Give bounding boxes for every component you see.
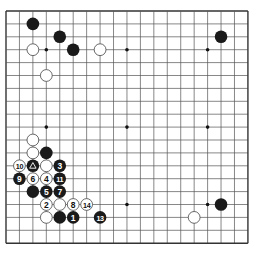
white-stone: 4 — [40, 173, 52, 185]
move-number: 13 — [96, 214, 104, 223]
white-stone — [94, 44, 106, 56]
black-stone-icon — [67, 43, 80, 56]
black-stone — [67, 43, 80, 56]
move-number: 1 — [71, 213, 76, 223]
move-number: 2 — [44, 200, 49, 210]
black-stone: 3 — [53, 160, 66, 173]
white-stone-icon — [94, 44, 106, 56]
move-number: 5 — [44, 187, 49, 197]
white-stone-icon — [188, 212, 200, 224]
black-stone — [53, 211, 66, 224]
white-stone-icon — [27, 147, 39, 159]
white-stone-icon — [27, 44, 39, 56]
move-number: 9 — [17, 174, 22, 184]
black-stone: 13 — [94, 211, 107, 224]
move-number: 14 — [83, 201, 91, 210]
white-stone: 8 — [67, 199, 79, 211]
white-stone — [188, 212, 200, 224]
star-point-icon — [125, 48, 129, 52]
white-stone: 6 — [27, 173, 39, 185]
white-stone-icon — [40, 160, 52, 172]
move-number: 11 — [56, 175, 63, 184]
white-stone — [40, 212, 52, 224]
white-stone-icon — [54, 199, 66, 211]
go-board: 10396411572814113 — [0, 0, 256, 255]
black-stone-icon — [27, 185, 40, 198]
black-stone-icon — [40, 147, 53, 160]
star-point-icon — [206, 125, 210, 129]
black-stone — [27, 185, 40, 198]
black-stone: 1 — [67, 211, 80, 224]
black-stone-icon — [53, 211, 66, 224]
black-stone — [53, 31, 66, 44]
black-stone — [215, 198, 228, 211]
move-number: 7 — [57, 187, 62, 197]
move-number: 4 — [44, 174, 49, 184]
black-stone-icon — [215, 31, 228, 44]
black-stone-icon — [27, 160, 40, 173]
black-stone-icon — [215, 198, 228, 211]
star-point-icon — [206, 203, 210, 207]
move-number: 10 — [16, 162, 24, 171]
black-stone — [40, 147, 53, 160]
white-stone-icon — [27, 134, 39, 146]
black-stone — [215, 31, 228, 44]
white-stone — [27, 44, 39, 56]
move-number: 6 — [31, 174, 36, 184]
black-stone — [27, 160, 40, 173]
black-stone: 9 — [13, 172, 26, 185]
star-point-icon — [125, 203, 129, 207]
black-stone: 5 — [40, 185, 53, 198]
star-point-icon — [206, 48, 210, 52]
white-stone-icon — [40, 70, 52, 82]
white-stone — [54, 199, 66, 211]
star-point-icon — [45, 125, 49, 129]
white-stone — [27, 147, 39, 159]
white-stone-icon — [40, 212, 52, 224]
move-number: 8 — [71, 200, 76, 210]
black-stone: 7 — [53, 185, 66, 198]
black-stone — [27, 18, 40, 31]
move-number: 3 — [57, 161, 62, 171]
white-stone: 2 — [40, 199, 52, 211]
black-stone: 11 — [53, 172, 66, 185]
white-stone: 10 — [14, 160, 26, 172]
black-stone-icon — [27, 18, 40, 31]
white-stone — [40, 70, 52, 82]
white-stone — [40, 160, 52, 172]
white-stone — [27, 134, 39, 146]
black-stone-icon — [53, 31, 66, 44]
star-point-icon — [45, 48, 49, 52]
white-stone: 14 — [81, 199, 93, 211]
star-point-icon — [125, 125, 129, 129]
